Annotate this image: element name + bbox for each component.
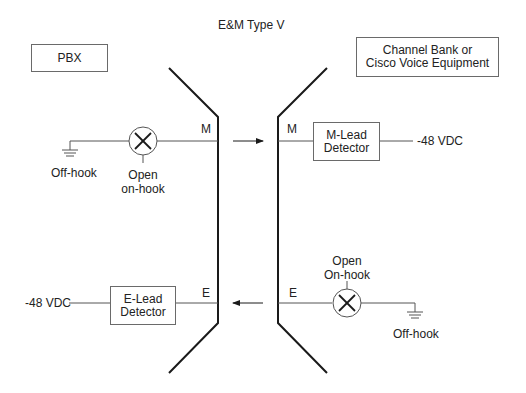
- ground-icon: [407, 303, 423, 318]
- left-lamp-label-line1: Open: [120, 168, 166, 182]
- channel-bank-label-line2: Cisco Voice Equipment: [366, 57, 489, 70]
- e-lead-detector-box: E-Lead Detector: [110, 286, 176, 325]
- left-lamp-label-line2: on-hook: [120, 182, 166, 196]
- left-e-voltage-label: -48 VDC: [25, 296, 71, 310]
- right-interface-bracket: [278, 68, 327, 373]
- left-interface-bracket: [169, 68, 218, 373]
- e-lead-detector-line1: E-Lead: [124, 293, 163, 306]
- left-lamp-label: Open on-hook: [120, 168, 166, 196]
- right-lamp-label: Open On-hook: [324, 254, 370, 282]
- lamp-icon: [333, 281, 361, 317]
- lamp-icon: [129, 127, 157, 163]
- m-lead-detector-box: M-Lead Detector: [313, 122, 380, 161]
- diagram-title: E&M Type V: [218, 18, 284, 32]
- m-lead-detector-line1: M-Lead: [326, 129, 367, 142]
- left-m-lead-label: M: [201, 122, 211, 136]
- e-lead-detector-line2: Detector: [120, 306, 165, 319]
- left-off-hook-label: Off-hook: [51, 166, 97, 180]
- left-m-lead-circuit: [62, 127, 218, 163]
- right-e-lead-circuit: [278, 281, 423, 318]
- right-m-lead-label: M: [287, 122, 297, 136]
- m-lead-detector-line2: Detector: [324, 142, 369, 155]
- pbx-label: PBX: [57, 52, 81, 65]
- left-e-lead-label: E: [202, 286, 210, 300]
- pbx-box: PBX: [31, 44, 108, 72]
- right-lamp-label-line1: Open: [324, 254, 370, 268]
- channel-bank-box: Channel Bank or Cisco Voice Equipment: [356, 37, 499, 77]
- right-lamp-label-line2: On-hook: [324, 268, 370, 282]
- right-off-hook-label: Off-hook: [393, 327, 439, 341]
- right-e-lead-label: E: [289, 286, 297, 300]
- right-m-voltage-label: -48 VDC: [417, 134, 463, 148]
- ground-icon: [62, 141, 78, 156]
